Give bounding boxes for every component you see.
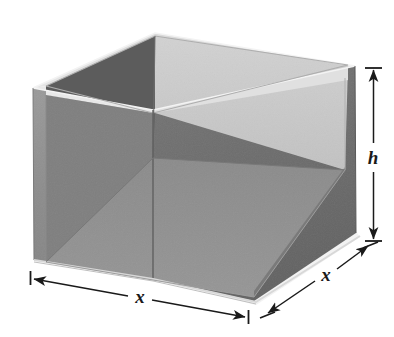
front-width-arrow-left (34, 279, 128, 296)
open-top-box-diagram: h x x (0, 0, 394, 337)
dimension-height: h (365, 68, 382, 241)
front-width-label: x (134, 286, 145, 307)
front-width-arrow-right (152, 300, 245, 317)
right-depth-tick-near (260, 312, 275, 318)
right-depth-label: x (320, 264, 331, 285)
box-solid (33, 33, 360, 305)
figure-container: h x x (0, 0, 394, 337)
height-label: h (368, 147, 379, 168)
right-depth-arrow-far (337, 246, 368, 269)
right-depth-tick-far (363, 242, 378, 248)
